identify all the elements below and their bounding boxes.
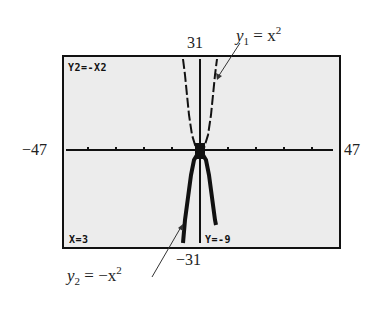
graph-plot (0, 0, 384, 321)
